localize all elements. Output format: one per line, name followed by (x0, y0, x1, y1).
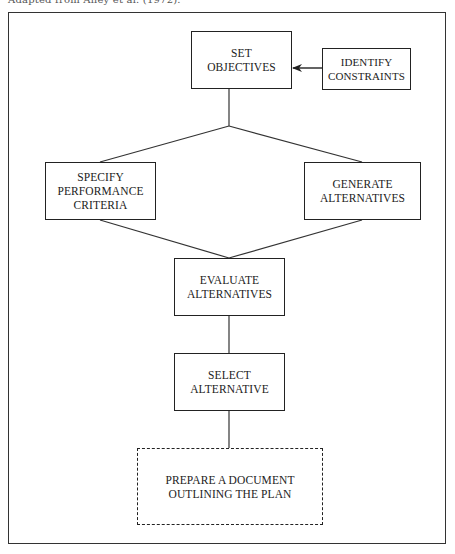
node-evaluate-alternatives: EVALUATE ALTERNATIVES (174, 258, 285, 316)
line-junction-to-generate (229, 126, 362, 162)
node-label-line: SELECT (190, 368, 269, 382)
node-set-objectives: SET OBJECTIVES (191, 31, 292, 89)
node-label-line: IDENTIFY (328, 55, 405, 69)
node-generate-alternatives: GENERATE ALTERNATIVES (304, 162, 421, 220)
node-label-line: OUTLINING THE PLAN (165, 487, 294, 501)
line-generate-to-evaluate (229, 220, 362, 258)
line-junction-to-specify (100, 126, 229, 162)
node-label-line: SET (207, 46, 276, 60)
node-prepare-document: PREPARE A DOCUMENT OUTLINING THE PLAN (137, 448, 323, 525)
node-select-alternative: SELECT ALTERNATIVE (174, 353, 285, 411)
node-specify-performance-criteria: SPECIFY PERFORMANCE CRITERIA (45, 162, 156, 220)
line-specify-to-evaluate (100, 220, 229, 258)
node-label-line: EVALUATE (187, 273, 272, 287)
node-label-line: PERFORMANCE (57, 184, 143, 198)
node-label-line: ALTERNATIVE (190, 382, 269, 396)
node-label-line: SPECIFY (57, 170, 143, 184)
node-label-line: CONSTRAINTS (328, 69, 405, 83)
node-label-line: PREPARE A DOCUMENT (165, 473, 294, 487)
node-identify-constraints: IDENTIFY CONSTRAINTS (322, 48, 411, 90)
node-label-line: CRITERIA (57, 198, 143, 212)
node-label-line: OBJECTIVES (207, 60, 276, 74)
node-label-line: ALTERNATIVES (187, 287, 272, 301)
node-label-line: GENERATE (320, 177, 405, 191)
node-label-line: ALTERNATIVES (320, 191, 405, 205)
